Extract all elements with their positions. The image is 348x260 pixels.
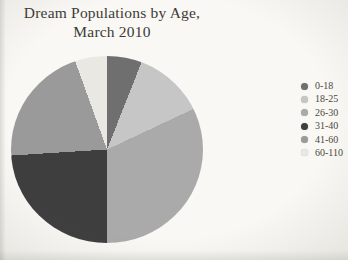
legend-marker-icon xyxy=(301,109,308,116)
chart-title: Dream Populations by Age, March 2010 xyxy=(0,3,224,41)
legend-marker-icon xyxy=(301,96,308,103)
legend-marker-icon xyxy=(301,123,308,130)
legend-label: 0-18 xyxy=(315,81,333,91)
pie-chart xyxy=(11,56,203,243)
legend-marker-icon xyxy=(301,149,308,156)
legend: 0-18 18-25 26-30 31-40 41-60 60-110 xyxy=(301,81,343,161)
legend-label: 31-40 xyxy=(315,121,338,131)
legend-item: 41-60 xyxy=(301,135,343,145)
legend-marker-icon xyxy=(301,83,308,90)
chart-title-line1: Dream Populations by Age, xyxy=(0,3,224,22)
legend-label: 18-25 xyxy=(315,94,338,104)
legend-label: 41-60 xyxy=(315,135,338,145)
scanned-page: Dream Populations by Age, March 2010 0-1… xyxy=(0,0,348,260)
legend-label: 26-30 xyxy=(315,108,338,118)
legend-item: 18-25 xyxy=(301,94,343,104)
legend-item: 26-30 xyxy=(301,108,343,118)
legend-label: 60-110 xyxy=(315,148,343,158)
legend-marker-icon xyxy=(301,136,308,143)
legend-item: 0-18 xyxy=(301,81,343,91)
legend-item: 60-110 xyxy=(301,148,343,158)
chart-title-line2: March 2010 xyxy=(0,22,224,41)
legend-item: 31-40 xyxy=(301,121,343,131)
